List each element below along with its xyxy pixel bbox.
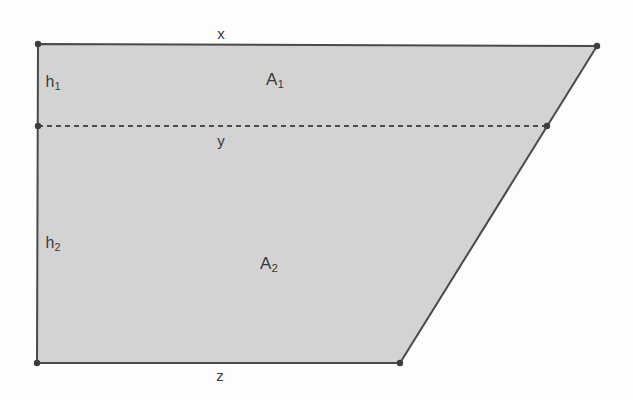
label-lower-height-h2: h2 [46, 235, 61, 253]
label-upper-area-a1: A1 [266, 71, 284, 91]
vertex-dot [594, 43, 600, 49]
diagram-canvas: x y z A1 A2 h1 h2 [0, 0, 633, 400]
vertex-dot [544, 123, 550, 129]
vertex-dot [34, 360, 40, 366]
vertex-dot [35, 123, 41, 129]
label-subscript: 1 [54, 80, 60, 92]
label-subscript: 2 [271, 262, 277, 274]
label-top-side-x: x [217, 26, 225, 41]
label-subscript: 2 [54, 241, 60, 253]
label-divider-y: y [217, 133, 225, 148]
label-subscript: 1 [277, 78, 283, 90]
vertex-dot [35, 41, 41, 47]
label-lower-area-a2: A2 [260, 255, 278, 275]
trapezoid-figure [0, 0, 633, 400]
trapezoid-shape [37, 44, 597, 363]
vertex-dot [397, 360, 403, 366]
label-upper-height-h1: h1 [46, 74, 61, 92]
label-bottom-side-z: z [216, 368, 224, 383]
